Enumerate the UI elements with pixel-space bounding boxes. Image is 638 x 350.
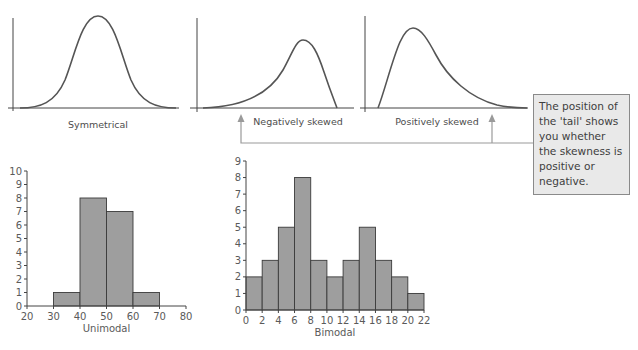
x-tick-label: 4	[275, 315, 281, 326]
negative-skew-curve	[203, 40, 337, 108]
positive-skew-curve-panel: Positively skewed	[360, 16, 528, 127]
x-tick-label: 10	[321, 315, 334, 326]
histogram-bar	[375, 260, 391, 310]
x-tick-label: 70	[153, 311, 166, 322]
x-tick-label: 12	[337, 315, 350, 326]
x-tick-label: 0	[243, 315, 249, 326]
x-tick-label: 60	[127, 311, 140, 322]
histogram-bar	[408, 293, 424, 310]
histogram-bar	[80, 198, 107, 306]
x-tick-label: 16	[369, 315, 382, 326]
y-tick-label: 0	[16, 301, 22, 312]
histogram-bar	[327, 277, 343, 310]
y-tick-label: 9	[16, 179, 22, 190]
x-tick-label: 2	[259, 315, 265, 326]
histogram-bar	[359, 227, 375, 310]
x-tick-label: 14	[353, 315, 366, 326]
histogram-bar	[311, 260, 327, 310]
y-tick-label: 6	[16, 220, 22, 231]
y-tick-label: 9	[235, 156, 241, 167]
positive-skew-label: Positively skewed	[395, 116, 479, 127]
callout-box: The position of the 'tail' shows you whe…	[533, 94, 630, 195]
y-tick-label: 2	[16, 274, 22, 285]
x-tick-label: 80	[180, 311, 193, 322]
histogram-bar	[107, 212, 134, 307]
y-tick-label: 5	[16, 233, 22, 244]
y-tick-label: 3	[235, 255, 241, 266]
x-axis-title: Bimodal	[315, 327, 356, 338]
x-tick-label: 8	[308, 315, 314, 326]
x-tick-label: 18	[385, 315, 398, 326]
histogram-bar	[262, 260, 278, 310]
y-tick-label: 4	[235, 238, 241, 249]
symmetrical-label: Symmetrical	[68, 119, 128, 130]
x-tick-label: 40	[74, 311, 87, 322]
y-tick-label: 3	[16, 260, 22, 271]
histogram-bar	[54, 293, 81, 307]
x-tick-label: 20	[21, 311, 34, 322]
x-tick-label: 50	[100, 311, 113, 322]
y-tick-label: 1	[235, 288, 241, 299]
y-tick-label: 7	[16, 206, 22, 217]
x-tick-label: 30	[47, 311, 60, 322]
x-tick-label: 6	[291, 315, 297, 326]
symmetrical-curve-panel: Symmetrical	[8, 16, 179, 130]
negative-skew-label: Negatively skewed	[253, 116, 343, 127]
x-tick-label: 20	[401, 315, 414, 326]
y-tick-label: 0	[235, 305, 241, 316]
callout-text: The position of the 'tail' shows you whe…	[539, 100, 622, 187]
y-tick-label: 6	[235, 205, 241, 216]
histogram-bar	[278, 227, 294, 310]
histogram-bar	[295, 178, 311, 310]
y-tick-label: 2	[235, 271, 241, 282]
arrow-up-icon	[238, 114, 245, 122]
y-tick-label: 7	[235, 189, 241, 200]
negative-skew-curve-panel: Negatively skewed	[190, 18, 354, 127]
y-tick-label: 10	[9, 166, 22, 177]
x-tick-label: 22	[418, 315, 431, 326]
y-tick-label: 1	[16, 287, 22, 298]
arrow-up-icon	[489, 114, 496, 122]
histogram-bar	[246, 277, 262, 310]
histogram-bar	[133, 293, 160, 307]
x-axis-title: Unimodal	[83, 323, 131, 334]
y-tick-label: 5	[235, 222, 241, 233]
bimodal-histogram: 01234567890246810121416182022Bimodal	[235, 156, 431, 339]
y-tick-label: 8	[235, 172, 241, 183]
y-tick-label: 8	[16, 193, 22, 204]
symmetrical-curve	[20, 16, 176, 108]
histogram-bar	[392, 277, 408, 310]
histogram-bar	[343, 260, 359, 310]
y-tick-label: 4	[16, 247, 22, 258]
unimodal-histogram: 01234567891020304050607080Unimodal	[9, 166, 192, 335]
positive-skew-curve	[378, 28, 527, 108]
